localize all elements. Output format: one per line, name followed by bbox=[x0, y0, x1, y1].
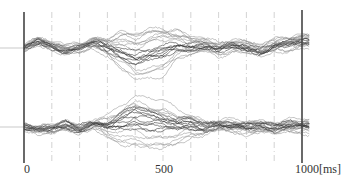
x-tick-label-500: 500 bbox=[155, 162, 173, 177]
bottom-waveform-traces bbox=[24, 95, 309, 149]
x-tick-label-1000: 1000[ms] bbox=[295, 162, 341, 177]
baseline-ticks bbox=[0, 48, 24, 127]
vertical-gridlines bbox=[52, 12, 274, 163]
waveform-chart bbox=[0, 0, 348, 185]
x-tick-label-0: 0 bbox=[24, 162, 30, 177]
top-waveform-traces bbox=[24, 27, 309, 80]
